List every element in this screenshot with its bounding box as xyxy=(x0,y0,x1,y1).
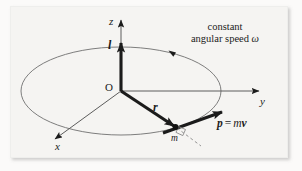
momentum-equation-lhs: p xyxy=(217,117,223,129)
point-mass-dot xyxy=(173,124,179,130)
omega-symbol: ω xyxy=(252,33,259,44)
point-mass-label-m: m xyxy=(171,133,178,144)
angular-speed-annotation: constant angular speed ω xyxy=(169,21,281,45)
origin-label: O xyxy=(105,81,113,93)
dashed-construction-line xyxy=(177,128,201,146)
momentum-equation: p=mv xyxy=(217,117,247,130)
axis-label-y: y xyxy=(260,95,265,107)
x-axis-line xyxy=(55,91,121,139)
axis-label-z: z xyxy=(109,15,113,27)
figure-root: z y x O l r m p=mv constant angular spee… xyxy=(0,0,302,171)
annotation-line-2-text: angular speed xyxy=(191,33,252,44)
momentum-equation-mass: m xyxy=(233,117,241,129)
vector-label-r: r xyxy=(153,101,158,114)
momentum-equation-velocity: v xyxy=(242,117,247,129)
axis-label-x: x xyxy=(55,140,60,152)
annotation-line-2: angular speed ω xyxy=(169,33,281,45)
rotation-direction-arrow-icon xyxy=(169,51,177,57)
momentum-vector-p xyxy=(163,112,222,133)
figure-plate: z y x O l r m p=mv constant angular spee… xyxy=(10,6,288,158)
position-vector-r xyxy=(121,91,174,126)
momentum-equation-equals: = xyxy=(225,117,232,129)
annotation-line-1: constant xyxy=(169,21,281,33)
vector-label-l: l xyxy=(108,39,111,52)
